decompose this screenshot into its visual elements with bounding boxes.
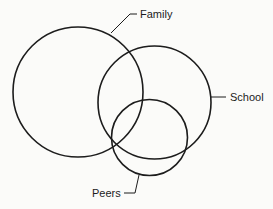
school-circle: [98, 46, 211, 159]
diagram-canvas: Family School Peers: [0, 0, 273, 209]
peers-circle: [112, 100, 188, 176]
peers-leader-line: [124, 175, 139, 193]
family-leader-line: [111, 14, 137, 33]
family-label: Family: [140, 9, 172, 20]
family-circle: [13, 27, 143, 157]
school-label: School: [230, 92, 264, 103]
peers-label: Peers: [92, 188, 121, 199]
venn-diagram: [0, 0, 273, 209]
